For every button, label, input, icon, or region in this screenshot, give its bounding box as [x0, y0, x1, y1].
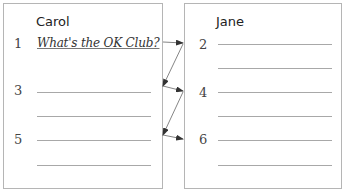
arrow-3-to-4-icon: [163, 86, 183, 91]
arrow-5-to-6-icon: [163, 135, 183, 139]
arrow-2-to-3-icon: [163, 44, 183, 86]
arrow-4-to-5-icon: [163, 92, 183, 135]
turn-arrows: [0, 0, 343, 195]
arrow-1-to-2-icon: [163, 42, 183, 43]
